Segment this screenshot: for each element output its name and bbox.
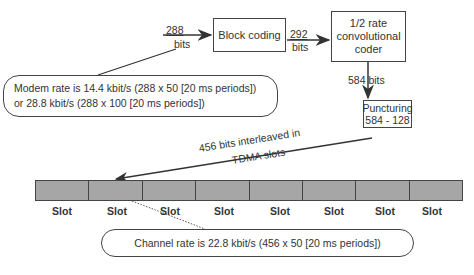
mid-bits-count: 292 xyxy=(290,28,308,40)
modem-note-line-1: Modem rate is 14.4 kbit/s (288 x 50 [20 … xyxy=(14,81,267,96)
mid-bits-unit: bits xyxy=(292,41,308,53)
puncturing-box: Puncturing 584 - 128 xyxy=(363,100,412,128)
tdma-slot xyxy=(250,181,303,200)
convolutional-coder-box: 1/2 rate convolutional coder xyxy=(331,11,406,62)
block-coding-label: Block coding xyxy=(218,29,280,42)
input-bits-count: 288 xyxy=(166,24,184,36)
channel-note-text: Channel rate is 22.8 kbit/s (456 x 50 [2… xyxy=(134,236,380,251)
slot-label: Slot xyxy=(143,205,197,217)
slot-label: Slot xyxy=(405,205,459,217)
puncturing-label: Puncturing xyxy=(362,102,412,114)
slot-label: Slot xyxy=(90,205,144,217)
tdma-slot xyxy=(36,181,89,200)
tdma-slot xyxy=(410,181,462,200)
input-bits-unit: bits xyxy=(174,38,190,50)
channel-rate-note: Channel rate is 22.8 kbit/s (456 x 50 [2… xyxy=(101,229,414,257)
tdma-slot xyxy=(196,181,249,200)
conv-line-2: convolutional xyxy=(336,30,400,43)
tdma-slot xyxy=(89,181,142,200)
block-coding-box: Block coding xyxy=(213,18,286,52)
slot-label: Slot xyxy=(358,205,412,217)
coder-output-bits: 584 bits xyxy=(348,74,385,86)
conv-line-3: coder xyxy=(355,43,383,56)
tdma-slot xyxy=(143,181,196,200)
tdma-slot-bar xyxy=(35,180,463,201)
puncturing-range: 584 - 128 xyxy=(365,114,409,126)
slot-label: Slot xyxy=(307,205,361,217)
slot-label: Slot xyxy=(253,205,307,217)
slot-label: Slot xyxy=(35,205,89,217)
slot-label: Slot xyxy=(197,205,251,217)
modem-rate-note: Modem rate is 14.4 kbit/s (288 x 50 [20 … xyxy=(3,75,278,117)
tdma-slot xyxy=(356,181,409,200)
conv-line-1: 1/2 rate xyxy=(350,17,387,30)
tdma-slot xyxy=(303,181,356,200)
modem-note-line-2: or 28.8 kbit/s (288 x 100 [20 ms periods… xyxy=(14,96,267,111)
